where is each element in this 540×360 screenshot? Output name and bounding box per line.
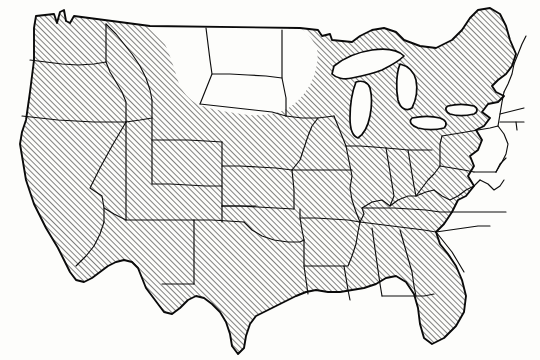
- border-nh-ma: [500, 108, 524, 114]
- border-ny-nj: [496, 158, 506, 172]
- us-map-svg: [0, 0, 540, 360]
- border-md-va: [480, 180, 504, 190]
- border-sc-nc: [436, 226, 490, 232]
- border-nh-me: [514, 36, 526, 64]
- map-figure: United States choropleth map with diagon…: [0, 0, 540, 360]
- lake-erie: [410, 117, 446, 130]
- lake-ontario: [446, 105, 477, 116]
- border-ct-ri: [516, 122, 517, 130]
